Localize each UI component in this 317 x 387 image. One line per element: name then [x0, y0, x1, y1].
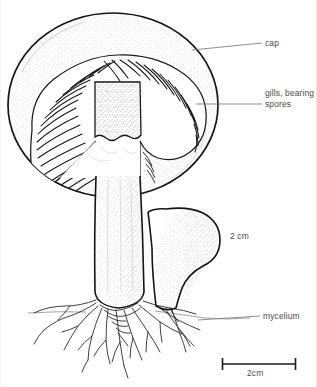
mushroom-diagram: [0, 0, 317, 387]
mushroom-stem: [90, 170, 150, 315]
label-mycelium: mycelium: [263, 311, 300, 322]
label-gills: gills, bearingspores: [265, 88, 314, 110]
label-gills-line2: spores: [265, 99, 291, 109]
label-scale-bar-2cm: 2cm: [247, 368, 263, 379]
label-gills-line1: gills, bearing: [265, 88, 314, 98]
young-button-mushroom: [140, 200, 235, 320]
label-measurement-2cm: 2 cm: [230, 231, 249, 242]
label-cap: cap: [265, 38, 279, 49]
leader-cap: [192, 43, 262, 50]
